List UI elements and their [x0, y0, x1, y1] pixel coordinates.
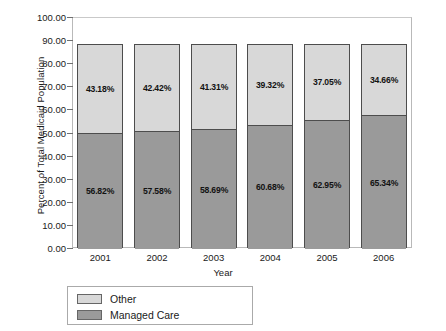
legend-item-other: Other: [77, 291, 252, 307]
bar-value-managed-care: 56.82%: [86, 186, 114, 196]
bar-segment-managed-care: 65.34%: [362, 115, 406, 249]
legend-item-managed-care: Managed Care: [77, 307, 252, 323]
bar-2005: 37.05%62.95%: [304, 44, 350, 248]
x-tick-label-2005: 2005: [297, 252, 357, 263]
bar-value-managed-care: 58.69%: [200, 185, 228, 195]
y-tick-mark: [67, 202, 73, 203]
legend-swatch-managed-care: [77, 310, 102, 320]
y-tick-mark: [67, 109, 73, 110]
x-tick-label-2002: 2002: [127, 252, 187, 263]
bar-value-managed-care: 60.68%: [256, 182, 284, 192]
bar-segment-other: 37.05%: [305, 45, 349, 121]
bar-2004: 39.32%60.68%: [247, 44, 293, 248]
legend-label-managed-care: Managed Care: [110, 309, 179, 321]
y-tick-label: 20.00: [8, 197, 66, 208]
y-tick-mark: [67, 225, 73, 226]
y-tick-label: 100.00: [8, 12, 66, 23]
bar-segment-managed-care: 58.69%: [192, 129, 236, 249]
bar-segment-managed-care: 56.82%: [78, 133, 122, 249]
y-tick-label: 60.00: [8, 104, 66, 115]
y-tick-label: 80.00: [8, 58, 66, 69]
y-tick-mark: [67, 17, 73, 18]
y-tick-mark: [67, 86, 73, 87]
bar-value-managed-care: 62.95%: [313, 180, 341, 190]
y-tick-label: 40.00: [8, 151, 66, 162]
y-tick-label: 90.00: [8, 35, 66, 46]
x-tick-label-2001: 2001: [70, 252, 130, 263]
x-tick-label-2004: 2004: [240, 252, 300, 263]
legend-swatch-other: [77, 294, 102, 304]
legend-label-other: Other: [110, 293, 136, 305]
bar-segment-other: 42.42%: [135, 45, 179, 132]
y-tick-mark: [67, 63, 73, 64]
y-tick-label: 30.00: [8, 174, 66, 185]
bar-2006: 34.66%65.34%: [361, 44, 407, 248]
bar-2002: 42.42%57.58%: [134, 44, 180, 248]
bar-segment-managed-care: 57.58%: [135, 131, 179, 249]
bar-value-managed-care: 57.58%: [143, 186, 171, 196]
bar-value-other: 37.05%: [313, 77, 341, 87]
y-tick-label: 0.00: [8, 243, 66, 254]
bar-value-other: 43.18%: [86, 84, 114, 94]
bar-segment-managed-care: 60.68%: [248, 125, 292, 249]
bar-segment-other: 43.18%: [78, 45, 122, 133]
chart-legend: Other Managed Care: [67, 286, 253, 325]
bar-segment-other: 41.31%: [192, 45, 236, 129]
bar-value-managed-care: 65.34%: [370, 178, 398, 188]
bar-value-other: 39.32%: [256, 80, 284, 90]
bar-2001: 43.18%56.82%: [77, 44, 123, 248]
y-tick-mark: [67, 40, 73, 41]
bar-segment-managed-care: 62.95%: [305, 120, 349, 249]
x-tick-label-2003: 2003: [184, 252, 244, 263]
bar-value-other: 41.31%: [200, 82, 228, 92]
y-tick-label: 50.00: [8, 128, 66, 139]
y-tick-label: 70.00: [8, 81, 66, 92]
bar-segment-other: 39.32%: [248, 45, 292, 125]
y-tick-mark: [67, 133, 73, 134]
bar-2003: 41.31%58.69%: [191, 44, 237, 248]
bar-value-other: 34.66%: [370, 75, 398, 85]
y-tick-mark: [67, 179, 73, 180]
y-tick-mark: [67, 156, 73, 157]
bar-value-other: 42.42%: [143, 83, 171, 93]
y-tick-mark: [67, 248, 73, 249]
x-tick-label-2006: 2006: [354, 252, 414, 263]
x-axis-title: Year: [0, 267, 446, 278]
y-tick-label: 10.00: [8, 220, 66, 231]
stacked-bar-chart: Percent of Total Medicaid Population 100…: [0, 0, 446, 331]
bar-segment-other: 34.66%: [362, 45, 406, 116]
